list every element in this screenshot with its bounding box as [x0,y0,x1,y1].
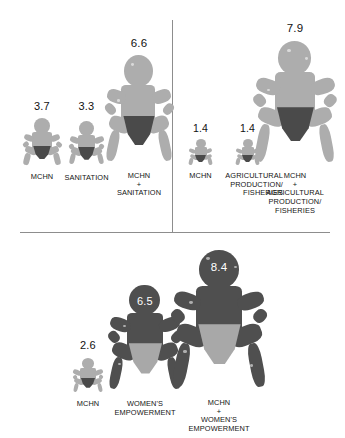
panel-mchn-agriculture: 1.4 MCHN 1.4 [172,0,345,232]
panel-mchn-womens-empowerment: 2.6 MCHN [0,232,345,438]
value-label: 2.6 [80,339,96,351]
baby-pictogram [68,121,105,166]
category-label: MCHN + SANITATION [117,172,161,198]
figure-unit-mchn-sanitation-66: 6.6 MCHN + SANITATION [105,55,173,165]
figure-unit-mchn-womens-empowerment-84: 8.4 MCHN + WOMEN'S EMPOWERMENT [172,250,266,393]
value-label: 3.7 [34,100,50,112]
category-label: MCHN + WOMEN'S EMPOWERMENT [188,399,249,434]
category-label: MCHN + AGRICULTURAL PRODUCTION/ FISHERIE… [266,172,324,216]
category-label: MCHN [31,173,54,182]
baby-pictogram [254,41,336,166]
value-label: 1.4 [240,122,255,134]
baby-pictogram [105,55,173,165]
panel-mchn-sanitation: 3.7 MCHN 3.3 [0,0,172,232]
figure-unit-womens-empowerment-65: 6.5 WOMEN'S EMPOWERMENT [108,285,182,393]
value-label: 8.4 [211,261,228,273]
category-label: SANITATION [64,174,108,183]
value-label: 3.3 [79,100,95,112]
infographic-canvas: 3.7 MCHN 3.3 [0,0,345,438]
figure-unit-mchn-14: 1.4 MCHN [188,139,213,166]
baby-pictogram [188,139,213,166]
figure-unit-mchn-37: 3.7 MCHN [22,118,62,166]
category-label: MCHN [77,400,100,409]
figure-unit-sanitation-33: 3.3 SANITATION [68,121,105,166]
category-label: WOMEN'S EMPOWERMENT [114,400,175,417]
category-label: MCHN [189,172,212,181]
value-label: 1.4 [193,122,208,134]
figure-unit-mchn-26: 2.6 MCHN [72,358,104,393]
baby-pictogram [22,118,62,166]
baby-pictogram [72,358,104,393]
figure-unit-mchn-agriculture-79: 7.9 MCHN + AGRICULTURAL PRODUCTION/ [254,41,336,166]
value-label: 6.6 [131,37,148,49]
value-label: 6.5 [137,295,153,307]
value-label: 7.9 [287,22,304,34]
